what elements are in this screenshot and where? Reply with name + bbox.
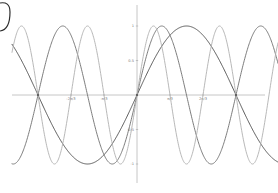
y-tick-label: 0.5: [128, 59, 134, 63]
annotation-circle-fragment: [0, 3, 10, 31]
y-tick-label: 1: [132, 24, 134, 28]
zero-crossing-point: [235, 94, 237, 96]
zero-crossing-point: [37, 94, 39, 96]
y-tick-label: -1: [130, 162, 134, 166]
function-plot: -2π/3-π/3π/32π/310.5-0.5-1: [0, 0, 278, 193]
zero-crossing-point: [136, 94, 138, 96]
